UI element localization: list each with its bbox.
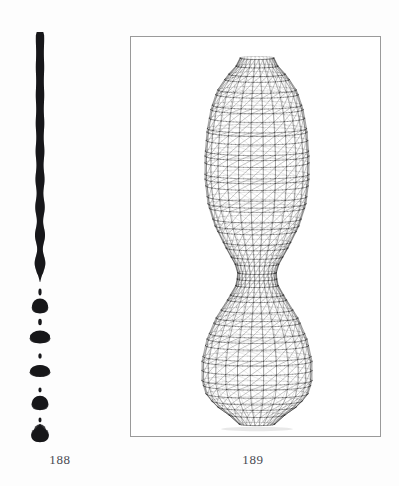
droplet-edge-blob [37,302,49,313]
figure-page: 188 189 [0,0,399,486]
caption-189: 189 [242,452,263,468]
satellite-droplet [38,319,42,325]
mesh-ring-front [239,424,275,426]
mesh-ring-front [216,318,298,322]
droplet-edge-blob [36,334,50,343]
mesh-ring-back [240,56,274,58]
droplet-edge-blob [36,368,50,377]
mesh-ring-front [205,156,309,161]
satellite-droplet [38,388,41,393]
jet-column [35,32,46,282]
mesh-meridian-back [274,58,311,424]
mesh-diagonal-back [226,57,251,423]
mesh-ring-back [205,158,309,163]
mesh-ring-back [202,375,312,380]
mesh-ring-front [205,174,309,179]
mesh-meridian-back [272,57,306,423]
mesh-ring-back [238,271,277,273]
mesh-ring-back [212,101,301,105]
mesh-diagonal-back [202,58,240,424]
mesh-ring-back [203,381,310,386]
mesh-ring-front [211,110,303,114]
droplet-edge-blob [37,399,49,409]
mesh-ring-back [206,389,308,394]
figure-189 [124,0,399,486]
mesh-ring-front [202,371,312,376]
droplet-edge-blob [37,428,49,441]
mesh-ring-back [209,114,304,118]
mesh-ring-front [205,163,309,168]
mesh-ring-back [213,215,301,219]
ground-shadow [221,427,293,431]
mesh-ring-front [214,323,300,327]
mesh-ring-front [206,186,308,191]
mesh-ring-front [216,95,298,99]
mesh-ring-back [205,174,309,179]
mesh-ring-front [227,300,286,303]
mesh-ring-back [207,335,307,340]
mesh-meridian-front [202,58,240,424]
jet-breakup-photograph [0,0,120,445]
mesh-ring-front [207,339,307,344]
mesh-ring-back [202,356,312,361]
wireframe-mesh-render [130,36,383,439]
mesh-ring-back [215,222,299,226]
mesh-ring-front [240,58,274,60]
caption-188: 188 [49,452,70,468]
satellite-droplet [39,418,42,423]
mesh-ring-front [213,219,301,223]
satellite-droplet [38,353,41,359]
ground-shadow-ellipse [221,427,293,431]
satellite-droplet [38,289,41,296]
mesh-ring-back [225,77,290,80]
mesh-ring-back [209,329,304,333]
mesh-meridian-front [250,60,255,426]
figure-188 [0,0,120,486]
mesh-diagonal-back [274,58,312,424]
